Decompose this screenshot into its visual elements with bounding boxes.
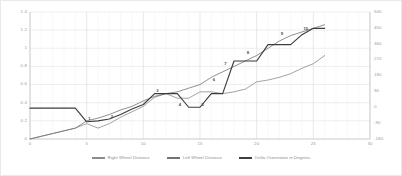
x-axis-tick: 5 (77, 142, 97, 146)
legend-item[interactable]: Left Wheel Distance (167, 156, 222, 160)
chart-canvas: 12345678910 (30, 12, 370, 139)
x-axis-tick: 25 (303, 142, 323, 146)
legend-swatch-icon (239, 157, 252, 159)
y-axis-right-tick: 270 (374, 57, 382, 61)
data-point-label: 1 (88, 116, 91, 121)
y-axis-right-tick: 90 (374, 89, 379, 93)
legend-label: Right Wheel Distance (108, 156, 150, 160)
y-axis-left-tick: 0.4 (6, 101, 27, 105)
y-axis-left-tick: 0.8 (6, 64, 27, 68)
y-axis-right-tick: 360 (374, 42, 382, 46)
data-point-label: 3 (156, 88, 159, 93)
y-axis-left-tick: 1.2 (6, 28, 27, 32)
y-axis-right-tick: 540 (374, 10, 382, 14)
data-point-label: 8 (247, 50, 250, 55)
data-point-label: 9 (281, 31, 284, 36)
x-axis-tick: 15 (190, 142, 210, 146)
y-axis-left-tick: 0.2 (6, 119, 27, 123)
y-axis-right-tick: 180 (374, 73, 382, 77)
chart-legend: Right Wheel DistanceLeft Wheel DistanceD… (0, 151, 402, 165)
y-axis-right-tick: 0 (374, 105, 377, 109)
x-axis-tick: 20 (247, 142, 267, 146)
legend-item[interactable]: Right Wheel Distance (92, 156, 150, 160)
legend-item[interactable]: Delta Orientation in Degrees (239, 156, 310, 160)
plot-area: 12345678910 (30, 12, 370, 139)
y-axis-right-tick: 450 (374, 26, 382, 30)
y-axis-left-tick: 0.6 (6, 82, 27, 86)
legend-label: Left Wheel Distance (183, 156, 222, 160)
data-point-label: 7 (224, 61, 227, 66)
x-axis-tick: 30 (360, 142, 380, 146)
data-point-label: 10 (304, 26, 309, 31)
y-axis-left-tick: 1.4 (6, 10, 27, 14)
legend-label: Delta Orientation in Degrees (255, 156, 310, 160)
y-axis-left-tick: 0 (6, 137, 27, 141)
x-axis-tick: 0 (20, 142, 40, 146)
legend-swatch-icon (167, 157, 180, 159)
data-point-label: 6 (213, 77, 216, 82)
chart-container: 12345678910 00.20.40.60.811.21.4 5404503… (0, 0, 402, 176)
y-axis-right-tick: -180 (374, 137, 383, 141)
legend-swatch-icon (92, 157, 105, 159)
y-axis-left-tick: 1 (6, 46, 27, 50)
x-axis-tick: 10 (133, 142, 153, 146)
y-axis-right-tick: -90 (374, 121, 381, 125)
